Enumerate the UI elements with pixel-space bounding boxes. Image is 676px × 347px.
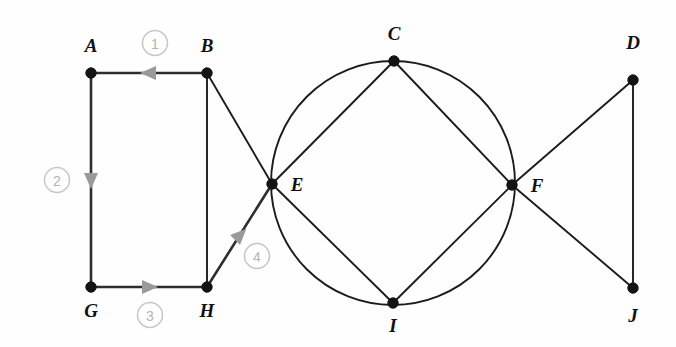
edge-e-c: [272, 61, 394, 184]
step-marker-label-4: 4: [253, 249, 261, 265]
node-label-j: J: [627, 305, 638, 326]
node-label-a: A: [84, 35, 98, 56]
direction-arrow-layer: [84, 66, 251, 294]
node-e[interactable]: [267, 179, 277, 189]
step-marker-layer: 1234: [45, 31, 270, 328]
node-label-d: D: [625, 32, 640, 53]
step-marker-label-2: 2: [53, 173, 61, 189]
direction-arrow-4: [230, 224, 251, 245]
node-g[interactable]: [86, 282, 96, 292]
edge-c-f: [394, 61, 512, 185]
node-label-e: E: [290, 174, 304, 195]
node-label-layer: ABCDEFGHIJ: [84, 23, 640, 336]
node-b[interactable]: [202, 68, 212, 78]
edge-e-i: [272, 184, 393, 303]
direction-arrow-1: [140, 66, 156, 80]
node-h[interactable]: [202, 282, 212, 292]
inscribing-circle: [271, 61, 515, 305]
graph-canvas: ABCDEFGHIJ 1234: [0, 0, 676, 347]
node-i[interactable]: [388, 298, 398, 308]
node-j[interactable]: [628, 283, 638, 293]
node-label-f: F: [530, 175, 544, 196]
node-label-i: I: [388, 315, 397, 336]
step-marker-label-1: 1: [151, 36, 159, 52]
node-f[interactable]: [507, 180, 517, 190]
circle-layer: [271, 61, 515, 305]
direction-arrow-3: [142, 280, 158, 294]
arrow-head-4: [230, 224, 251, 245]
graph-figure: ABCDEFGHIJ 1234: [0, 0, 676, 347]
node-label-c: C: [388, 23, 401, 44]
direction-arrow-2: [84, 173, 98, 189]
arrow-head-2: [84, 173, 98, 189]
edge-b-e: [207, 73, 272, 184]
edge-f-j: [512, 185, 633, 288]
node-label-h: H: [199, 300, 216, 321]
node-a[interactable]: [86, 68, 96, 78]
step-marker-label-3: 3: [146, 308, 154, 324]
node-d[interactable]: [628, 75, 638, 85]
node-label-b: B: [200, 35, 214, 56]
node-c[interactable]: [389, 56, 399, 66]
arrow-head-1: [140, 66, 156, 80]
edge-layer: [91, 61, 633, 303]
node-label-g: G: [84, 300, 98, 321]
arrow-head-3: [142, 280, 158, 294]
edge-f-d: [512, 80, 633, 185]
edge-i-f: [393, 185, 512, 303]
